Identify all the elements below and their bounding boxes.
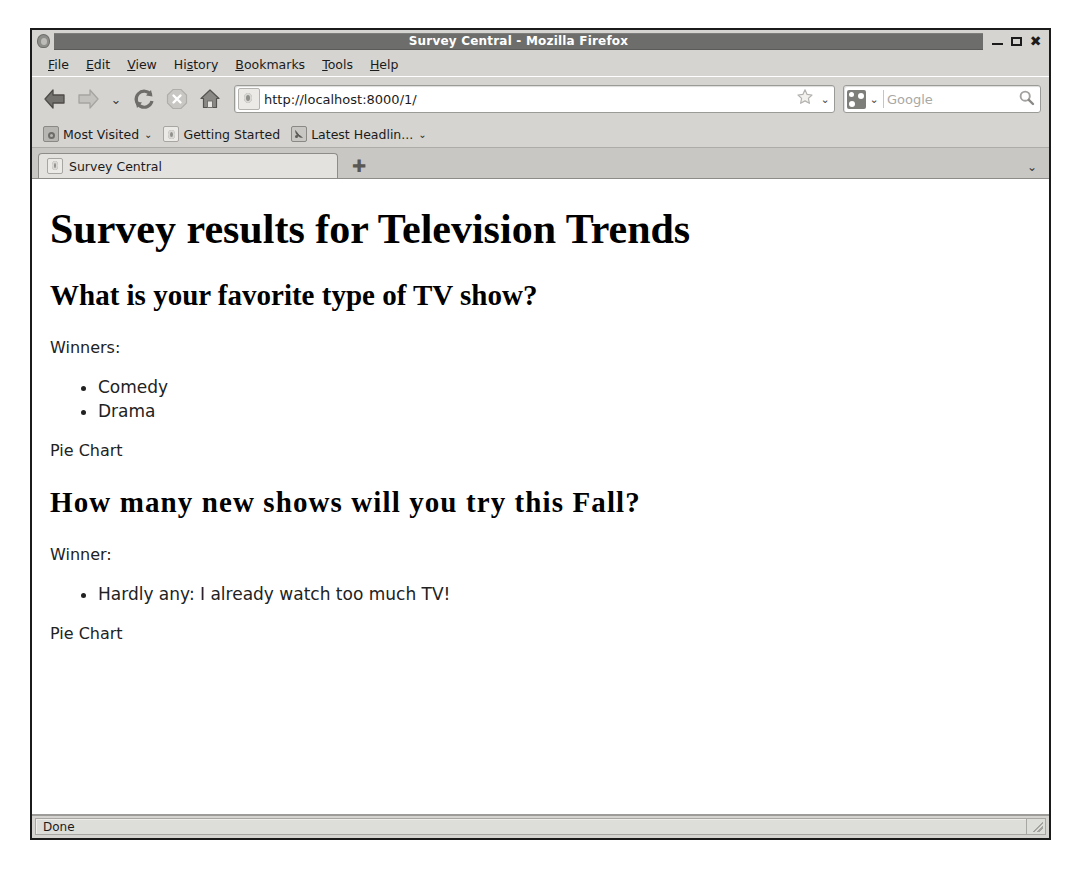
chevron-down-icon[interactable]: ⌄ [106, 84, 126, 114]
globe-icon [35, 33, 52, 50]
winners-label-2: Winner: [50, 545, 1029, 564]
list-item: Hardly any: I already watch too much TV! [98, 582, 1029, 606]
tab-survey-central[interactable]: Survey Central [38, 153, 338, 178]
plus-icon: ✚ [352, 158, 366, 174]
reload-icon[interactable] [129, 84, 159, 114]
folder-icon [43, 126, 59, 142]
close-icon[interactable]: ✖ [1029, 35, 1042, 48]
bookmark-getting-started[interactable]: Getting Started [159, 124, 287, 144]
feed-icon [291, 126, 307, 142]
menu-item-file[interactable]: File [40, 55, 78, 74]
window-title: Survey Central - Mozilla Firefox [409, 34, 629, 48]
menu-item-tools[interactable]: Tools [314, 55, 362, 74]
minimize-icon[interactable] [991, 35, 1004, 48]
new-tab-button[interactable]: ✚ [344, 153, 374, 178]
menu-item-bookmarks[interactable]: Bookmarks [227, 55, 314, 74]
bookmark-label: Getting Started [183, 127, 280, 142]
list-all-tabs-chevron-icon[interactable]: ⌄ [1027, 160, 1037, 174]
menu-item-help[interactable]: Help [362, 55, 408, 74]
list-item: Drama [98, 399, 1029, 423]
status-bar: Done [32, 814, 1049, 838]
bookmark-most-visited[interactable]: Most Visited ⌄ [39, 124, 159, 144]
url-input[interactable]: http://localhost:8000/1/ [264, 92, 796, 107]
bookmark-label: Most Visited [63, 127, 139, 142]
document-icon [163, 126, 179, 142]
menu-item-view[interactable]: View [119, 55, 166, 74]
navigation-toolbar: ⌄ http://localhost:8000/1/ [32, 77, 1049, 121]
page-content: Survey results for Television Trends Wha… [32, 178, 1049, 814]
status-field: Done [35, 818, 1027, 835]
menu-bar: File Edit View History Bookmarks Tools H… [32, 52, 1049, 77]
window-controls: ✖ [983, 35, 1047, 48]
pie-chart-label-2: Pie Chart [50, 624, 1029, 643]
search-box[interactable]: ⌄ Google [843, 85, 1041, 113]
page-title: Survey results for Television Trends [50, 205, 1029, 253]
resize-grip-icon[interactable] [1027, 818, 1046, 835]
back-icon[interactable] [40, 84, 70, 114]
maximize-icon[interactable] [1010, 35, 1023, 48]
search-icon[interactable] [1018, 89, 1035, 110]
winners-list-2: Hardly any: I already watch too much TV! [50, 582, 1029, 606]
survey-results-document: Survey results for Television Trends Wha… [50, 205, 1029, 643]
search-divider [883, 90, 884, 108]
stop-icon [162, 84, 192, 114]
chevron-down-icon[interactable]: ⌄ [144, 129, 152, 140]
document-icon [47, 158, 63, 174]
tab-label: Survey Central [69, 159, 162, 174]
menu-item-history[interactable]: History [166, 55, 227, 74]
title-bar: Survey Central - Mozilla Firefox ✖ [32, 30, 1049, 52]
bookmarks-toolbar: Most Visited ⌄ Getting Started Latest He… [32, 121, 1049, 148]
chevron-down-icon[interactable]: ⌄ [418, 129, 426, 140]
pie-chart-label-1: Pie Chart [50, 441, 1029, 460]
menu-item-edit[interactable]: Edit [78, 55, 119, 74]
page-favicon-icon [238, 88, 260, 110]
search-input[interactable]: Google [887, 92, 1018, 107]
forward-icon [73, 84, 103, 114]
url-dropdown-chevron-icon[interactable]: ⌄ [816, 93, 834, 106]
question-heading-1: What is your favorite type of TV show? [50, 279, 1029, 312]
bookmark-label: Latest Headlin... [311, 127, 413, 142]
search-engine-icon[interactable] [847, 90, 866, 109]
tab-bar: Survey Central ✚ ⌄ [32, 148, 1049, 178]
home-icon[interactable] [195, 84, 225, 114]
winners-list-1: Comedy Drama [50, 375, 1029, 423]
question-heading-2: How many new shows will you try this Fal… [50, 486, 1029, 519]
star-icon[interactable] [796, 88, 814, 110]
url-bar[interactable]: http://localhost:8000/1/ ⌄ [234, 85, 835, 113]
winners-label-1: Winners: [50, 338, 1029, 357]
bookmark-latest-headlines[interactable]: Latest Headlin... ⌄ [287, 124, 433, 144]
title-bar-strip: Survey Central - Mozilla Firefox [54, 33, 983, 50]
list-item: Comedy [98, 375, 1029, 399]
browser-window: Survey Central - Mozilla Firefox ✖ File … [30, 28, 1051, 840]
search-engine-chevron-icon[interactable]: ⌄ [867, 93, 881, 106]
status-text: Done [43, 820, 75, 834]
